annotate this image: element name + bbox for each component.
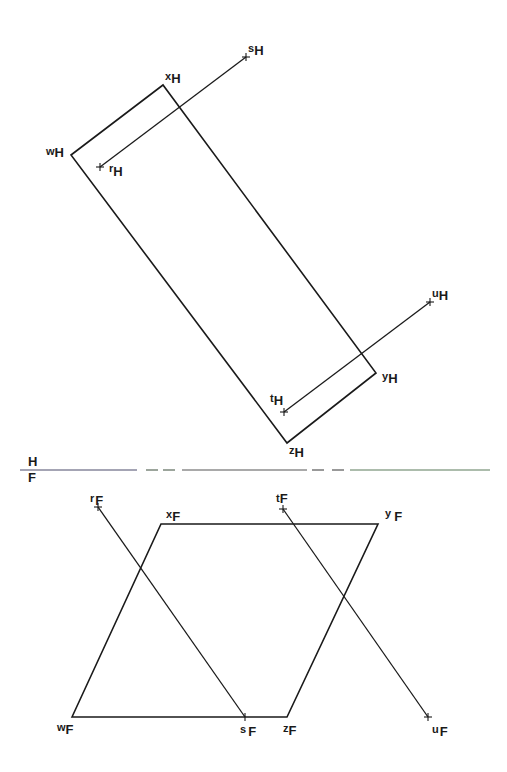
projection-diagram: wH xH yH zH rH sH tH uH H F (0, 0, 507, 772)
folding-label-f: F (28, 470, 36, 485)
label-y-h: yH (382, 370, 398, 386)
line-tu-frontal (283, 509, 428, 717)
label-x-f: xF (166, 508, 180, 524)
label-z-f: zF (283, 722, 297, 738)
label-z-h: zH (289, 444, 304, 460)
label-u-f: uF (432, 723, 448, 739)
point-marker-u-f (424, 713, 432, 721)
point-marker-t-f (279, 505, 287, 513)
label-r-h: rH (109, 162, 123, 179)
label-w-h: wH (45, 145, 64, 160)
label-y-f: yF (385, 507, 402, 524)
folding-line-hf: H F (20, 454, 490, 485)
folding-label-h: H (28, 454, 37, 469)
horizontal-view: wH xH yH zH rH sH tH uH (45, 42, 448, 460)
label-s-f: sF (240, 723, 256, 739)
line-tu-horizontal (284, 302, 430, 412)
label-t-h: tH (270, 392, 283, 408)
label-w-f: wF (56, 721, 74, 737)
label-x-h: xH (165, 70, 181, 86)
label-t-f: tF (276, 491, 288, 506)
label-u-h: uH (432, 287, 448, 303)
frontal-view: wF xF yF zF rF sF tF uF (56, 491, 448, 739)
label-r-f: rF (90, 492, 103, 508)
label-s-h: sH (248, 42, 264, 58)
plane-wxyz-horizontal (71, 85, 376, 443)
